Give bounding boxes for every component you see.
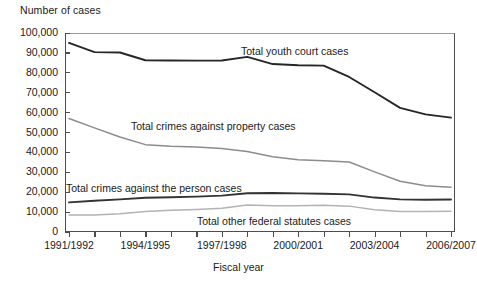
x-tick-mark [400,232,401,237]
x-tick-mark [247,232,248,237]
x-tick-mark [171,232,172,237]
x-tick-mark [273,232,274,237]
x-tick-mark [298,232,299,237]
x-tick-label: 1991/1992 [44,239,94,251]
y-tick-label: 10,000 [26,205,58,217]
x-tick-mark [222,232,223,237]
series-lines [65,33,455,232]
x-tick-mark [145,232,146,237]
chart-figure: Number of cases 100,00090,00080,00070,00… [0,0,477,286]
y-tick-label: 80,000 [26,66,58,78]
x-tick-mark [196,232,197,237]
y-tick-label: 70,000 [26,86,58,98]
x-tick-mark [426,232,427,237]
y-tick-label: 40,000 [26,145,58,157]
y-tick-label: 60,000 [26,106,58,118]
series-label: Total youth court cases [241,45,348,57]
x-tick-label: 2006/2007 [426,239,476,251]
series-label: Total crimes against the person cases [66,182,242,194]
plot-area: 100,00090,00080,00070,00060,00050,00040,… [65,33,455,232]
x-tick-label: 1997/1998 [197,239,247,251]
x-tick-label: 2000/2001 [273,239,323,251]
x-tick-mark [120,232,121,237]
x-axis-title: Fiscal year [0,261,477,273]
series-line [69,205,451,215]
y-tick-label: 20,000 [26,185,58,197]
series-label: Total crimes against property cases [131,120,296,132]
x-tick-label: 2003/2004 [350,239,400,251]
y-tick-label: 100,000 [20,26,58,38]
x-tick-label: 1994/1995 [121,239,171,251]
y-tick-label: 30,000 [26,165,58,177]
y-tick-label: 50,000 [26,126,58,138]
x-tick-mark [375,232,376,237]
y-axis-title: Number of cases [20,4,101,16]
series-line [69,193,451,202]
x-tick-mark [349,232,350,237]
x-tick-mark [451,232,452,237]
x-tick-mark [94,232,95,237]
x-tick-mark [324,232,325,237]
series-label: Total other federal statutes cases [197,215,351,227]
x-tick-mark [69,232,70,237]
y-tick-label: 0 [52,225,58,237]
y-tick-label: 90,000 [26,46,58,58]
